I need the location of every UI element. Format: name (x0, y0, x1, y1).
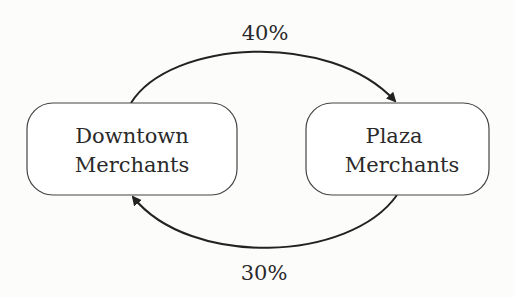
node-plaza-label-line1: Plaza (366, 124, 423, 148)
edge-label-40-percent: 40% (242, 21, 289, 45)
node-downtown-label-line1: Downtown (75, 124, 189, 148)
flow-diagram: Downtown Merchants Plaza Merchants 40% 3… (0, 0, 514, 297)
node-downtown-merchants: Downtown Merchants (27, 103, 237, 195)
node-plaza-merchants: Plaza Merchants (306, 103, 489, 195)
node-downtown-label-line2: Merchants (75, 153, 190, 177)
edge-plaza-to-downtown (133, 195, 397, 248)
edge-downtown-to-plaza (131, 52, 395, 103)
node-plaza-label-line2: Merchants (345, 153, 460, 177)
edge-label-30-percent: 30% (241, 261, 288, 285)
